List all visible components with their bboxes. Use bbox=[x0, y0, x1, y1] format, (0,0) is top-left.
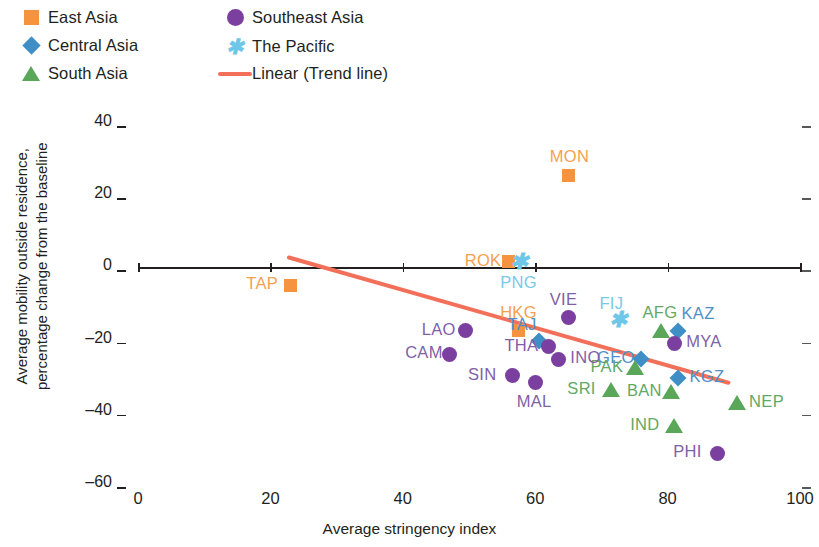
y-axis-tick-mark-right bbox=[802, 126, 811, 128]
y-axis-tick-mark-right bbox=[802, 415, 811, 417]
data-point-label: ROK bbox=[465, 251, 502, 270]
x-axis-tick-mark bbox=[800, 263, 802, 272]
triangle-marker-icon bbox=[626, 360, 644, 375]
legend-label: The Pacific bbox=[252, 37, 335, 56]
legend-item-southeast-asia: Southeast Asia bbox=[218, 8, 363, 27]
data-point-label: TAP bbox=[246, 274, 278, 293]
x-axis-tick-label: 20 bbox=[240, 489, 300, 508]
y-axis-tick-mark bbox=[117, 270, 126, 272]
x-axis-tick-label: 60 bbox=[505, 489, 565, 508]
data-point-label: VIE bbox=[550, 290, 578, 309]
x-axis-tick-label: 80 bbox=[638, 489, 698, 508]
data-point-label: LAO bbox=[422, 320, 456, 339]
y-axis-label: Average mobility outside residence, perc… bbox=[12, 116, 53, 416]
data-point-label: NEP bbox=[749, 392, 784, 411]
legend-item-the-pacific: ✱ The Pacific bbox=[218, 36, 335, 57]
data-point-label: SRI bbox=[567, 379, 595, 398]
y-axis-tick-mark-right bbox=[802, 270, 811, 272]
data-point-label: KGZ bbox=[690, 367, 725, 386]
y-axis-tick-label: –60 bbox=[52, 473, 112, 491]
x-axis-tick-label: 0 bbox=[108, 489, 168, 508]
y-axis-tick-mark bbox=[117, 415, 126, 417]
data-point-label: PNG bbox=[500, 273, 537, 292]
data-point-label: MYA bbox=[686, 332, 721, 351]
circle-marker-icon bbox=[528, 375, 543, 390]
circle-marker-icon bbox=[458, 323, 473, 338]
data-point-label: IND bbox=[630, 415, 659, 434]
legend-label: Central Asia bbox=[48, 36, 138, 55]
y-axis-tick-mark-right bbox=[802, 198, 811, 200]
y-axis-tick-label: –40 bbox=[52, 401, 112, 419]
data-point-label: KAZ bbox=[682, 304, 715, 323]
triangle-marker-icon bbox=[662, 384, 680, 399]
data-point-label: INO bbox=[570, 348, 600, 367]
x-marker-icon: ✱ bbox=[218, 36, 252, 57]
square-marker-icon bbox=[284, 279, 297, 292]
circle-marker-icon bbox=[561, 310, 576, 325]
y-axis-tick-label: 0 bbox=[52, 256, 112, 274]
plot-area: Average mobility outside residence, perc… bbox=[0, 96, 819, 547]
x-axis-tick-label: 100 bbox=[770, 489, 819, 508]
square-marker-icon bbox=[14, 10, 48, 25]
data-point-label: PHI bbox=[673, 442, 701, 461]
data-point-label: THA bbox=[504, 336, 538, 355]
line-marker-icon bbox=[218, 72, 252, 76]
legend-label: East Asia bbox=[48, 8, 118, 27]
data-point-label: BAN bbox=[627, 381, 662, 400]
data-point-label: TAJ bbox=[508, 315, 537, 334]
data-point-label: CAM bbox=[405, 343, 443, 362]
legend-item-east-asia: East Asia bbox=[14, 8, 118, 27]
triangle-marker-icon bbox=[665, 418, 683, 433]
square-marker-icon bbox=[562, 169, 575, 182]
triangle-marker-icon bbox=[14, 66, 48, 81]
circle-marker-icon bbox=[667, 336, 682, 351]
circle-marker-icon bbox=[218, 9, 252, 26]
legend-label: Southeast Asia bbox=[252, 8, 363, 27]
circle-marker-icon bbox=[551, 352, 566, 367]
x-axis-tick-label: 40 bbox=[373, 489, 433, 508]
triangle-marker-icon bbox=[728, 395, 746, 410]
y-axis-tick-mark-right bbox=[802, 343, 811, 345]
legend-item-central-asia: Central Asia bbox=[14, 36, 138, 55]
y-axis-tick-label: 20 bbox=[52, 184, 112, 202]
legend-label: Linear (Trend line) bbox=[252, 64, 388, 83]
y-axis-tick-mark bbox=[117, 126, 126, 128]
circle-marker-icon bbox=[505, 368, 520, 383]
triangle-marker-icon bbox=[652, 323, 670, 338]
circle-marker-icon bbox=[710, 446, 725, 461]
data-point-label: AFG bbox=[642, 303, 677, 322]
legend-item-south-asia: South Asia bbox=[14, 64, 128, 83]
data-point-label: MON bbox=[550, 147, 589, 166]
y-axis-tick-label: –20 bbox=[52, 329, 112, 347]
chart-root: East Asia Central Asia South Asia Southe… bbox=[0, 0, 819, 547]
x-axis-label: Average stringency index bbox=[0, 520, 819, 538]
x-marker-icon: ✱ bbox=[510, 251, 528, 273]
circle-marker-icon bbox=[442, 347, 457, 362]
triangle-marker-icon bbox=[602, 382, 620, 397]
chart-legend: East Asia Central Asia South Asia Southe… bbox=[0, 0, 819, 96]
y-axis-tick-mark bbox=[117, 343, 126, 345]
y-axis-tick-label: 40 bbox=[52, 112, 112, 130]
y-axis-tick-mark bbox=[117, 198, 126, 200]
data-point-label: FIJ bbox=[599, 294, 623, 313]
legend-item-trend-line: Linear (Trend line) bbox=[218, 64, 388, 83]
data-point-label: SIN bbox=[468, 365, 496, 384]
diamond-marker-icon bbox=[14, 39, 48, 52]
data-point-label: MAL bbox=[517, 392, 552, 411]
legend-label: South Asia bbox=[48, 64, 128, 83]
